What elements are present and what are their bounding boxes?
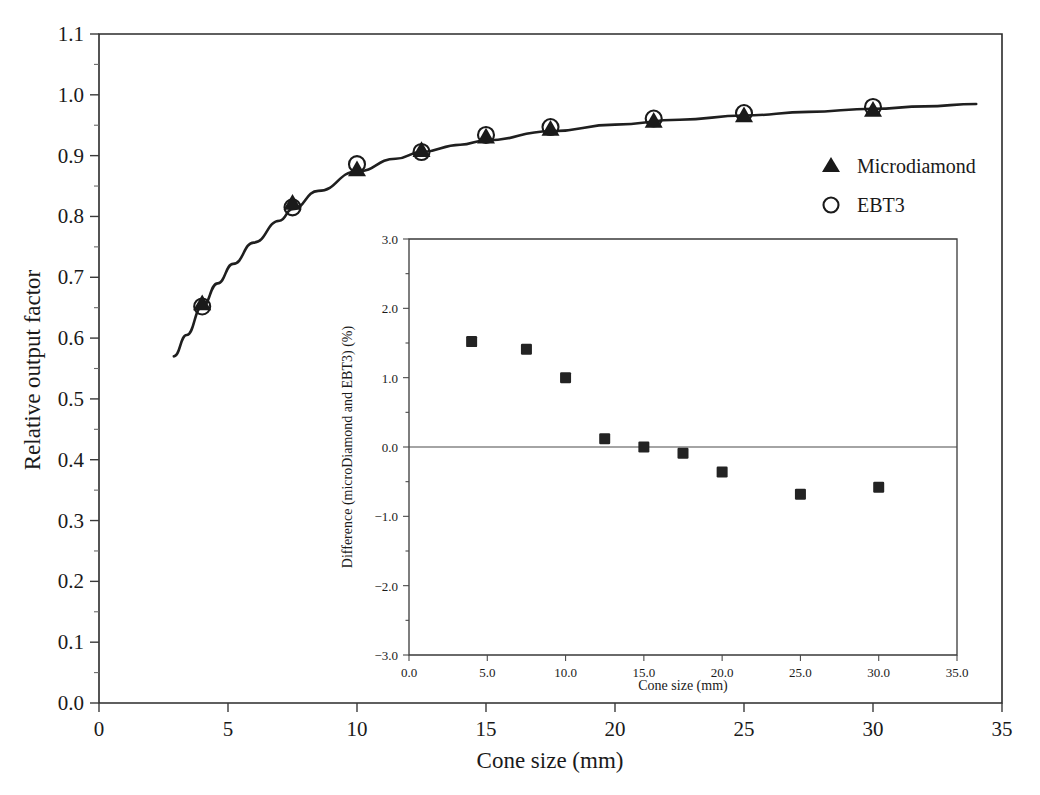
inset-data-point: [599, 433, 610, 444]
main-x-tick-label: 0: [94, 717, 105, 741]
main-y-tick-label: 0.7: [58, 265, 84, 289]
inset-y-tick-label: 0.0: [382, 440, 398, 455]
inset-x-tick-label: 5.0: [479, 665, 495, 680]
inset-y-tick-label: 2.0: [382, 301, 398, 316]
inset-x-tick-label: 35.0: [946, 665, 969, 680]
legend-entry-ebt3[interactable]: EBT3: [824, 194, 905, 216]
main-y-tick-group: 0.00.10.20.30.40.50.60.70.80.91.01.1: [58, 22, 99, 715]
inset-y-tick-label: −1.0: [374, 509, 398, 524]
main-y-tick-label: 0.6: [58, 326, 84, 350]
inset-y-tick-label: 3.0: [382, 232, 398, 247]
main-x-tick-label: 35: [992, 717, 1013, 741]
main-y-tick-label: 0.5: [58, 387, 84, 411]
inset-data-point: [717, 466, 728, 477]
legend-entry-microdiamond[interactable]: Microdiamond: [822, 155, 976, 177]
main-x-tick-label: 15: [476, 717, 497, 741]
inset-y-tick-group: 3.02.01.00.0−1.0−2.0−3.0: [374, 232, 409, 663]
inset-data-point: [466, 336, 477, 347]
inset-x-tick-label: 10.0: [554, 665, 577, 680]
inset-y-tick-label: −2.0: [374, 579, 398, 594]
main-x-tick-label: 30: [863, 717, 884, 741]
inset-plot-area: 3.02.01.00.0−1.0−2.0−3.0 0.05.010.015.02…: [340, 232, 968, 694]
legend: Microdiamond EBT3: [822, 155, 976, 216]
inset-data-point: [560, 372, 571, 383]
main-y-tick-label: 0.3: [58, 509, 84, 533]
main-x-tick-label: 10: [347, 717, 368, 741]
main-y-tick-label: 0.1: [58, 630, 84, 654]
main-y-tick-label: 1.0: [58, 83, 84, 107]
main-y-tick-label: 1.1: [58, 22, 84, 46]
main-x-tick-label: 5: [223, 717, 234, 741]
main-y-tick-label: 0.4: [58, 448, 85, 472]
inset-x-tick-label: 0.0: [401, 665, 417, 680]
main-y-tick-label: 0.2: [58, 569, 84, 593]
inset-data-point: [873, 482, 884, 493]
inset-data-point: [678, 448, 689, 459]
inset-y-tick-label: −3.0: [374, 648, 398, 663]
main-x-tick-label: 25: [734, 717, 755, 741]
main-x-tick-group: 05101520253035: [94, 703, 1013, 741]
inset-x-tick-group: 0.05.010.015.020.025.030.035.0: [401, 655, 969, 680]
main-x-axis-label: Cone size (mm): [477, 748, 624, 773]
main-y-tick-label: 0.8: [58, 204, 84, 228]
legend-label-microdiamond: Microdiamond: [857, 155, 976, 177]
inset-x-axis-label: Cone size (mm): [638, 678, 728, 694]
inset-y-axis-label: Difference (microDiamond and EBT3) (%): [340, 326, 356, 569]
main-y-tick-label: 0.0: [58, 691, 84, 715]
main-x-tick-label: 20: [605, 717, 626, 741]
open-circle-icon: [824, 198, 839, 213]
inset-data-point: [795, 489, 806, 500]
inset-data-point: [521, 344, 532, 355]
main-y-tick-label: 0.9: [58, 144, 84, 168]
main-y-axis-label: Relative output factor: [20, 269, 45, 470]
inset-data-point: [638, 442, 649, 453]
figure-canvas: 0.00.10.20.30.40.50.60.70.80.91.01.1 051…: [0, 0, 1040, 795]
inset-x-tick-label: 30.0: [867, 665, 890, 680]
inset-x-tick-label: 25.0: [789, 665, 812, 680]
legend-label-ebt3: EBT3: [857, 194, 905, 216]
scientific-figure: 0.00.10.20.30.40.50.60.70.80.91.01.1 051…: [0, 0, 1040, 795]
inset-y-tick-label: 1.0: [382, 371, 398, 386]
filled-triangle-icon: [822, 157, 840, 172]
